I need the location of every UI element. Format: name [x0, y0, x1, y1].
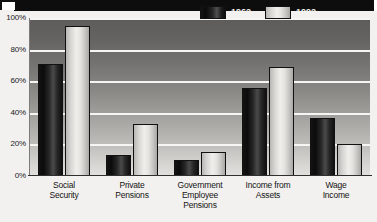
y-tick-label: 100% [0, 14, 26, 22]
y-tick-label: 80% [0, 46, 26, 54]
x-tick-label-line: Income from [234, 180, 302, 190]
legend-label-1992: 1992 [296, 8, 316, 17]
x-tick-label-line: Security [30, 190, 98, 200]
bar-1992-3 [201, 152, 226, 176]
bar-1992-2 [133, 124, 158, 176]
bar-group [106, 18, 158, 176]
y-tick-label: 40% [0, 109, 26, 117]
bar-group [242, 18, 294, 176]
x-tick-label: Income fromAssets [234, 180, 302, 200]
x-tick-label: GovernmentEmployeePensions [166, 180, 234, 210]
legend-swatch-1962-icon [200, 6, 226, 19]
x-tick-label: PrivatePensions [98, 180, 166, 200]
x-tick-label-line: Assets [234, 190, 302, 200]
bar-1992-4 [269, 67, 294, 176]
x-tick-label-line: Government [166, 180, 234, 190]
bar-group [174, 18, 226, 176]
x-tick-label-line: Social [30, 180, 98, 190]
chart-figure: 0%20%40%60%80%100% SocialSecurityPrivate… [0, 0, 377, 222]
bar-1962-5 [310, 118, 335, 176]
bar-1992-5 [337, 144, 362, 176]
legend-item-1962: 1962 [200, 6, 251, 19]
title-band-corner-mark [0, 0, 15, 10]
title-band [14, 0, 377, 11]
bar-1962-1 [38, 64, 63, 176]
bar-1962-3 [174, 160, 199, 176]
bar-group [38, 18, 90, 176]
x-tick-label-line: Pensions [98, 190, 166, 200]
y-tick-label: 20% [0, 140, 26, 148]
x-tick-label-line: Pensions [166, 200, 234, 210]
chart-legend: 1962 1992 [200, 6, 316, 19]
x-tick-label-line: Employee [166, 190, 234, 200]
x-tick-label: WageIncome [302, 180, 370, 200]
legend-item-1992: 1992 [265, 6, 316, 19]
x-tick-label: SocialSecurity [30, 180, 98, 200]
y-axis-line [29, 18, 30, 176]
bar-1962-2 [106, 155, 131, 176]
y-tick-label: 60% [0, 77, 26, 85]
x-tick-label-line: Private [98, 180, 166, 190]
bar-1992-1 [65, 26, 90, 176]
bar-1962-4 [242, 88, 267, 176]
x-tick-label-line: Income [302, 190, 370, 200]
legend-swatch-1992-icon [265, 6, 291, 19]
x-axis-line [28, 175, 372, 176]
bar-group [310, 18, 362, 176]
plot-area [30, 18, 370, 176]
y-tick-label: 0% [0, 172, 26, 180]
legend-label-1962: 1962 [231, 8, 251, 17]
x-tick-label-line: Wage [302, 180, 370, 190]
